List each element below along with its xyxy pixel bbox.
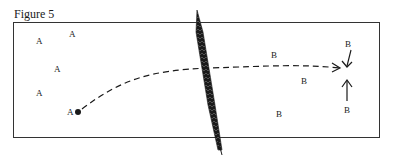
- origin-dot: [75, 109, 81, 115]
- barrier-band: [196, 10, 222, 150]
- diagram-graphics: [0, 0, 394, 163]
